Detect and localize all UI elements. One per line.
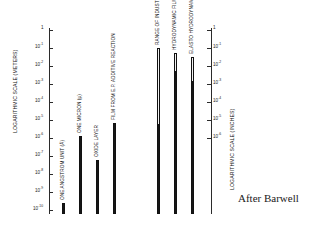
bar-one-micron (79, 136, 82, 214)
bar-label-one-micron: ONE MICRON (μ) (78, 94, 83, 133)
bar-label-hydrodynamic-film-thickness: HYDRODYNAMIC FILM THICKNESS (173, 0, 178, 50)
right-tick-label-3: 10-3 (213, 80, 221, 85)
right-tick-6 (207, 138, 211, 139)
left-tick-7 (49, 156, 53, 157)
left-tick-label-6: 10-6 (35, 134, 43, 139)
left-tick-8 (49, 174, 53, 175)
bar-label-industrial-surface-roughness: RANGE OF INDUSTRIAL SURFACE ROUGHNESS (156, 0, 161, 45)
right-tick-label-0: 1 (213, 26, 216, 31)
bar-elasto-hydrodynamic-film-thickness (191, 57, 194, 214)
right-axis-title: LOGARITHMIC SCALE (INCHES) (229, 109, 235, 190)
bar-label-elasto-hydrodynamic-film-thickness: ELASTO HYDRODYNAMIC FILM THICKNESS (190, 0, 195, 54)
left-tick-6 (49, 138, 53, 139)
credit-after-barwell: After Barwell (238, 192, 299, 204)
left-tick-label-4: 10-4 (35, 98, 43, 103)
bar-one-angstrom-unit (62, 203, 65, 214)
left-axis-title: LOGARITHMIC SCALE (METERS) (12, 50, 18, 133)
right-tick-5 (207, 120, 211, 121)
right-tick-1 (207, 48, 211, 49)
right-tick-2 (207, 66, 211, 67)
left-tick-label-9: 10-9 (35, 188, 43, 193)
left-tick-label-0: 1 (41, 26, 44, 31)
left-tick-3 (49, 84, 53, 85)
bar-oxide-layer (96, 160, 99, 214)
left-tick-9 (49, 192, 53, 193)
bar-label-oxide-layer: OXIDE LAYER (95, 125, 100, 157)
left-tick-label-10: 10-10 (33, 206, 43, 211)
bar-industrial-surface-roughness (157, 48, 160, 214)
left-tick-1 (49, 48, 53, 49)
left-tick-label-8: 10-8 (35, 170, 43, 175)
left-tick-4 (49, 102, 53, 103)
left-tick-10 (49, 210, 53, 211)
right-tick-0 (207, 30, 211, 31)
right-tick-label-5: 10-5 (213, 116, 221, 121)
bar-hydrodynamic-film-thickness (174, 53, 177, 214)
left-tick-label-7: 10-7 (35, 152, 43, 157)
left-tick-5 (49, 120, 53, 121)
left-tick-label-3: 10-3 (35, 80, 43, 85)
bar-film-ep-additive-reaction (113, 123, 116, 214)
right-tick-3 (207, 84, 211, 85)
right-tick-label-1: 10-1 (213, 44, 221, 49)
left-tick-0 (49, 30, 53, 31)
log-scale-bar-chart: LOGARITHMIC SCALE (METERS) 1 10-1 10-2 1… (0, 0, 325, 235)
bar-label-one-angstrom-unit: ONE ANGSTROM UNIT (Å) (61, 140, 66, 200)
left-tick-label-1: 10-1 (35, 44, 43, 49)
left-tick-label-2: 10-2 (35, 62, 43, 67)
right-tick-4 (207, 102, 211, 103)
left-tick-2 (49, 66, 53, 67)
bar-label-film-ep-additive-reaction: FILM FROM E.P. ADDITIVE REACTION (112, 33, 117, 120)
right-tick-label-4: 10-4 (213, 98, 221, 103)
left-tick-label-5: 10-5 (35, 116, 43, 121)
right-tick-label-6: 10-6 (213, 134, 221, 139)
right-tick-label-2: 10-2 (213, 62, 221, 67)
